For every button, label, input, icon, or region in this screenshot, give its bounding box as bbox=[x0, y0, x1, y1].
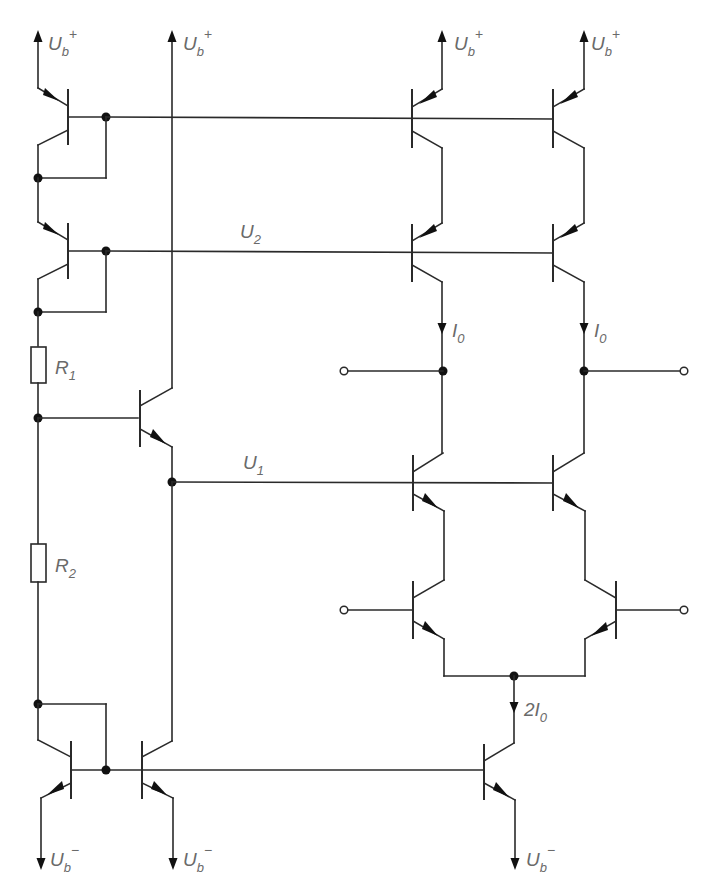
junction-dot bbox=[102, 766, 111, 775]
label-supply-pos-2: Ub+ bbox=[183, 26, 212, 59]
label-supply-neg-3: Ub− bbox=[526, 842, 555, 875]
label-supply-neg-1: Ub− bbox=[50, 842, 79, 875]
label-supply-pos-3: Ub+ bbox=[454, 26, 483, 59]
label-supply-pos-1: Ub+ bbox=[48, 26, 77, 59]
circuit-diagram: Ub+ R1 R2 U bbox=[0, 0, 719, 892]
transistor-npn-diff-b bbox=[585, 580, 616, 639]
transistor-npn-tail bbox=[484, 743, 515, 800]
current-arrow-i0-a bbox=[438, 323, 447, 334]
label-i0-a: I0 bbox=[452, 320, 465, 346]
label-supply-neg-2: Ub− bbox=[183, 842, 212, 875]
resistor-r1 bbox=[31, 347, 46, 383]
supply-arrow-neg bbox=[169, 858, 178, 870]
resistor-r2 bbox=[31, 544, 46, 582]
supply-arrow-neg bbox=[511, 858, 520, 870]
supply-arrow-top-4 bbox=[580, 30, 589, 42]
bias-line-u2 bbox=[106, 251, 553, 253]
label-r2: R2 bbox=[55, 555, 77, 581]
label-r1: R1 bbox=[55, 357, 76, 383]
label-2i0: 2I0 bbox=[523, 699, 548, 725]
transistor-pnp-top-left bbox=[38, 88, 106, 145]
transistor-pnp-top-b bbox=[553, 89, 584, 148]
supply-arrow-neg bbox=[37, 858, 46, 870]
input-terminal-right[interactable] bbox=[680, 606, 688, 614]
transistor-npn-follower bbox=[140, 388, 172, 447]
label-u1: U1 bbox=[243, 452, 264, 478]
output-terminal-left[interactable] bbox=[340, 367, 348, 375]
current-arrow-2i0 bbox=[510, 702, 519, 713]
output-terminal-right[interactable] bbox=[680, 367, 688, 375]
supply-arrow-top-3 bbox=[438, 30, 447, 42]
current-arrow-i0-b bbox=[580, 323, 589, 334]
supply-arrow-top-2 bbox=[168, 30, 177, 42]
label-i0-b: I0 bbox=[594, 320, 607, 346]
transistor-npn-bottom-left bbox=[38, 740, 71, 799]
bias-line-top bbox=[106, 117, 553, 119]
supply-arrow-top-left bbox=[34, 30, 43, 88]
transistor-pnp-mid-left bbox=[38, 222, 106, 279]
transistor-pnp-cascode-b bbox=[553, 223, 584, 282]
bias-line-u1 bbox=[172, 482, 553, 483]
label-u2: U2 bbox=[240, 221, 262, 247]
transistor-npn-diff-a bbox=[413, 580, 444, 639]
input-terminal-left[interactable] bbox=[340, 606, 348, 614]
transistor-npn-cascode-b bbox=[553, 453, 585, 511]
label-supply-pos-4: Ub+ bbox=[591, 26, 620, 59]
